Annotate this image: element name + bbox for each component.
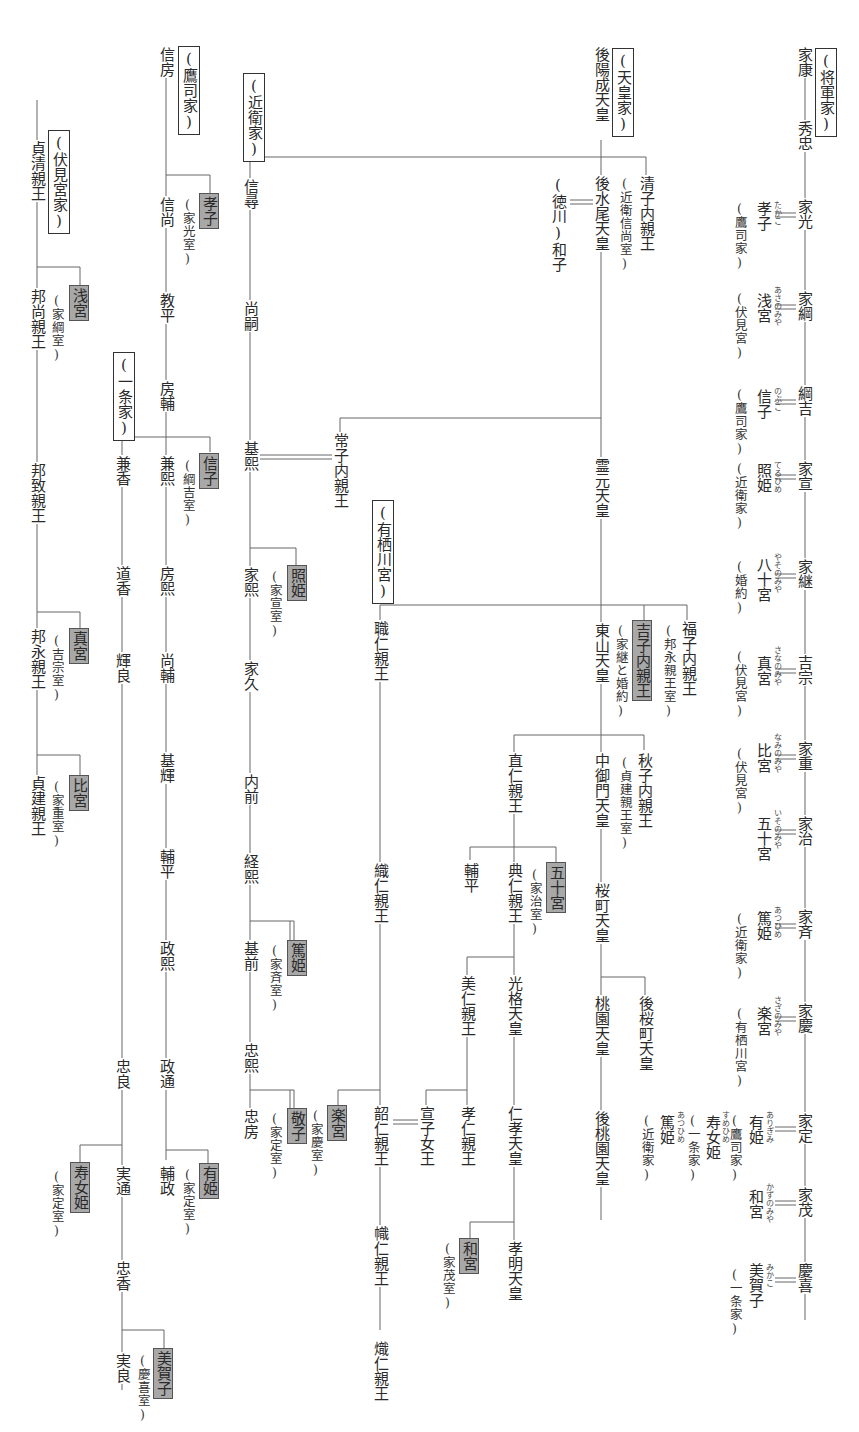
tenno-sakuramachi: 桜町天皇 bbox=[593, 882, 609, 944]
ichijo-tadayoshi: 忠良 bbox=[114, 1058, 130, 1090]
sazanomiya-note: (家慶室) bbox=[309, 1107, 322, 1178]
tokugawa-masako: (徳川)和子 bbox=[550, 175, 566, 273]
spouse-sazanomiya: 楽宮 bbox=[755, 1005, 771, 1037]
ruby: のぶこ bbox=[772, 386, 780, 412]
sukehira: 輔平 bbox=[462, 862, 478, 894]
ruby: あつひめ bbox=[772, 905, 780, 939]
takako-highlight: 孝子 bbox=[199, 193, 219, 229]
origin: (婚約) bbox=[733, 558, 746, 616]
spouse-asanomiya: 浅宮 bbox=[755, 292, 771, 324]
akiko-note: (貞建親王室) bbox=[618, 754, 631, 851]
konoe-tadahiro: 忠熙 bbox=[242, 1042, 258, 1074]
taka-nobufusa: 信房 bbox=[158, 46, 174, 78]
shogun-ienobu: 家宣 bbox=[796, 460, 812, 492]
takahito-2: 幟仁親王 bbox=[372, 1225, 388, 1287]
taka-masahiro: 政熙 bbox=[158, 940, 174, 972]
nobuko-joo: 宣子女王 bbox=[418, 1105, 434, 1167]
origin: (一条家) bbox=[728, 1266, 741, 1337]
konoe-nobuhiro: 信尋 bbox=[242, 178, 258, 210]
ruby: なみのみや bbox=[772, 732, 780, 774]
shogun-ieharu: 家治 bbox=[796, 815, 812, 847]
ruby: あさのみや bbox=[772, 285, 780, 327]
taruhito: 熾仁親王 bbox=[372, 1340, 388, 1402]
taka-nobuhisa: 信尚 bbox=[158, 196, 174, 228]
taka-fusasuke: 房輔 bbox=[158, 380, 174, 412]
sazanomiya-highlight: 楽宮 bbox=[327, 1105, 347, 1141]
fushimi-kuninaga: 邦永親王 bbox=[29, 628, 45, 690]
sumiko-highlight: 敬子 bbox=[287, 1108, 307, 1144]
genealogy-diagram: (将軍家) 家康 秀忠 家光 家綱 綱吉 家宣 家継 吉宗 家重 家治 家斉 家… bbox=[0, 0, 859, 1432]
origin: (近衛家) bbox=[640, 1112, 653, 1183]
origin: (鷹司家) bbox=[733, 386, 746, 457]
origin: (近衛家) bbox=[733, 910, 746, 981]
house-label-fushimi: (伏見宮家) bbox=[48, 130, 70, 234]
sumehime-note: (家定室) bbox=[50, 1168, 63, 1239]
shogun-iemitsu: 家光 bbox=[796, 198, 812, 230]
shogun-ietsugu: 家継 bbox=[796, 558, 812, 590]
ichijo-michika: 道香 bbox=[114, 565, 130, 597]
ruby: ありぎみ bbox=[764, 1110, 772, 1144]
spouse-nobuko: 信子 bbox=[755, 388, 771, 420]
kazunomiya-highlight: 和宮 bbox=[459, 1238, 479, 1274]
ruby: かずのみや bbox=[764, 1182, 772, 1224]
spouse-sananomiya: 真宮 bbox=[755, 655, 771, 687]
tenno-gomizunoo: 後水尾天皇 bbox=[593, 175, 609, 252]
origin: (有栖川宮) bbox=[733, 1005, 746, 1089]
house-label-tenno: (天皇家) bbox=[612, 48, 634, 137]
taka-sukehira: 輔平 bbox=[158, 848, 174, 880]
tenno-reigen: 霊元天皇 bbox=[593, 457, 609, 519]
house-label-ichijo: (一条家) bbox=[113, 352, 135, 441]
shogun-yoshinobu: 慶喜 bbox=[796, 1262, 812, 1294]
house-label-shogun: (将軍家) bbox=[815, 48, 837, 137]
shogun-ienari: 家斉 bbox=[796, 908, 812, 940]
nobuko-note: (綱吉室) bbox=[181, 457, 194, 528]
house-label-arisugawa: (有栖川宮) bbox=[372, 500, 394, 604]
origin: (鷹司家) bbox=[728, 1112, 741, 1183]
teruhime-note: (家宣室) bbox=[268, 568, 281, 639]
house-label-konoe: (近衛家) bbox=[243, 73, 265, 162]
fushimi-sadakiyo: 貞清親王 bbox=[29, 140, 45, 202]
konoe-iehiro: 家熙 bbox=[242, 566, 258, 598]
ichijo-saneyoshi: 実良 bbox=[114, 1352, 130, 1384]
konoe-uchisaki: 内前 bbox=[242, 773, 258, 805]
arigimi-note: (家定室) bbox=[181, 1166, 194, 1237]
spouse-mikako: 美賀子 bbox=[747, 1262, 763, 1309]
tenno-kokaku: 光格天皇 bbox=[506, 975, 522, 1037]
tenno-higashiyama: 東山天皇 bbox=[593, 622, 609, 684]
isonomiya-note: (家治室) bbox=[528, 866, 541, 937]
shogun-hidetada: 秀忠 bbox=[796, 120, 812, 152]
isonomiya-highlight: 五十宮 bbox=[546, 862, 566, 913]
spouse-teruhime: 照姫 bbox=[755, 462, 771, 494]
origin: (近衛家) bbox=[733, 460, 746, 531]
shogun-ieshige: 家重 bbox=[796, 740, 812, 772]
spouse-atsuhime-2: 篤姫 bbox=[658, 1114, 674, 1146]
ruby: やそのみや bbox=[772, 552, 780, 594]
atsuhime-highlight: 篤姫 bbox=[287, 940, 307, 976]
fushimi-kunimune: 邦致親王 bbox=[29, 462, 45, 524]
origin: (伏見宮) bbox=[733, 290, 746, 361]
spouse-isonomiya: 五十宮 bbox=[755, 815, 771, 862]
konoe-tadafusa: 忠房 bbox=[242, 1108, 258, 1140]
shogun-tsunayoshi: 綱吉 bbox=[796, 385, 812, 417]
shogun-ieyoshi: 家慶 bbox=[796, 1002, 812, 1034]
fushimi-kuninao: 邦尚親王 bbox=[29, 288, 45, 350]
tenno-momozono: 桃園天皇 bbox=[593, 995, 609, 1057]
origin: (伏見宮) bbox=[733, 745, 746, 816]
naminomiya-highlight: 比宮 bbox=[69, 775, 89, 811]
sukehito: 典仁親王 bbox=[506, 862, 522, 924]
konoe-hisatsugu: 尚嗣 bbox=[242, 300, 258, 332]
yorihito: 職仁親王 bbox=[372, 620, 388, 682]
kiyoko-note: (近衛信尚室) bbox=[618, 175, 631, 272]
ruby: あつひめ bbox=[675, 1110, 683, 1144]
spouse-sumehime: 寿女姫 bbox=[704, 1114, 720, 1161]
asanomiya-highlight: 浅宮 bbox=[69, 285, 89, 321]
ruby: たかこ bbox=[772, 200, 780, 226]
spouse-takako: 孝子 bbox=[755, 200, 771, 232]
taka-mototeru: 基輝 bbox=[158, 752, 174, 784]
tenno-ninko: 仁孝天皇 bbox=[506, 1105, 522, 1167]
fukuko: 福子内親王 bbox=[680, 620, 696, 697]
asanomiya-note: (家綱室) bbox=[50, 292, 63, 363]
spouse-atsuhime: 篤姫 bbox=[755, 910, 771, 942]
taka-fusahiro: 房熙 bbox=[158, 565, 174, 597]
naohito: 直仁親王 bbox=[506, 752, 522, 814]
